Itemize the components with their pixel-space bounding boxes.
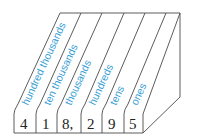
digit-tens: 9	[108, 116, 116, 132]
digit-ones: 5	[129, 116, 137, 132]
place-value-diagram: hundred thousands ten thousands thousand…	[0, 0, 208, 139]
digit-hundreds: 2	[87, 116, 95, 132]
divider-5	[124, 13, 166, 133]
digit-ten-thousands: 1	[42, 116, 50, 132]
digit-thousands: 8,	[62, 116, 73, 132]
side-panel-edge	[143, 13, 180, 133]
side-panel-diagonal	[143, 13, 180, 114]
place-label-ones: ones	[128, 81, 149, 107]
digit-hundred-thousands: 4	[20, 116, 28, 132]
place-value-chart: hundred thousands ten thousands thousand…	[0, 0, 208, 139]
place-label-tens: tens	[107, 84, 126, 107]
